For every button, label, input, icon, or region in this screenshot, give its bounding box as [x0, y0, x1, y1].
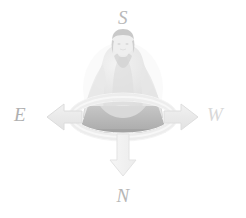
- direction-label-west: W: [207, 105, 223, 124]
- direction-label-north: N: [0, 186, 246, 205]
- direction-label-south: S: [0, 8, 246, 27]
- compass-meditation-diagram: S E W N: [0, 0, 246, 218]
- right-eye: [126, 43, 129, 45]
- left-eye: [118, 43, 121, 45]
- direction-label-east: E: [14, 105, 26, 124]
